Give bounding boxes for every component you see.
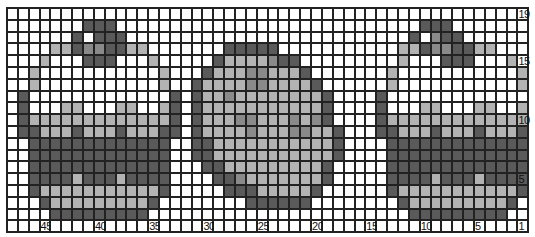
grid-cell (247, 9, 258, 21)
grid-cell (518, 198, 529, 210)
grid-cell (312, 186, 323, 198)
grid-cell (323, 174, 334, 186)
grid-cell (8, 103, 19, 115)
grid-cell (138, 80, 149, 92)
grid-cell (345, 56, 356, 68)
grid-cell: 19 (518, 9, 529, 21)
grid-cell (203, 151, 214, 163)
grid-cell (106, 115, 117, 127)
grid-cell (138, 21, 149, 33)
grid-cell (51, 162, 62, 174)
grid-cell (312, 103, 323, 115)
grid-cell (171, 33, 182, 45)
grid-cell (399, 174, 410, 186)
grid-cell (41, 21, 52, 33)
grid-cell (182, 33, 193, 45)
grid-cell (464, 56, 475, 68)
grid-cell (269, 162, 280, 174)
grid-cell (453, 21, 464, 33)
grid-cell (203, 127, 214, 139)
grid-cell (225, 174, 236, 186)
grid-cell (356, 80, 367, 92)
grid-cell (236, 115, 247, 127)
grid-cell (301, 162, 312, 174)
grid-cell (366, 139, 377, 151)
grid-cell (193, 56, 204, 68)
grid-cell (301, 92, 312, 104)
grid-cell (258, 127, 269, 139)
grid-cell (117, 44, 128, 56)
grid-cell (214, 198, 225, 210)
grid-cell (388, 9, 399, 21)
grid-cell (106, 56, 117, 68)
grid-cell (377, 103, 388, 115)
grid-cell (73, 115, 84, 127)
column-number-label: 10 (421, 221, 432, 231)
grid-cell (497, 127, 508, 139)
grid-cell (366, 92, 377, 104)
grid-cell (30, 174, 41, 186)
grid-cell (51, 210, 62, 222)
grid-cell (323, 186, 334, 198)
grid-cell (214, 92, 225, 104)
column-number-label: 30 (203, 221, 214, 231)
grid-cell (138, 103, 149, 115)
column-number-label: 45 (41, 221, 52, 231)
grid-cell (203, 162, 214, 174)
grid-cell (475, 115, 486, 127)
grid-cell (464, 21, 475, 33)
grid-cell (377, 68, 388, 80)
grid-cell (323, 21, 334, 33)
grid-cell (138, 186, 149, 198)
grid-cell (117, 210, 128, 222)
grid-cell (193, 186, 204, 198)
grid-cell (84, 174, 95, 186)
grid-cell (41, 103, 52, 115)
grid-cell (388, 162, 399, 174)
grid-cell (432, 80, 443, 92)
grid-cell (117, 139, 128, 151)
grid-cell (388, 68, 399, 80)
grid-cell (269, 174, 280, 186)
grid-cell (214, 127, 225, 139)
grid-cell (518, 33, 529, 45)
grid-cell (62, 162, 73, 174)
grid-cell (388, 21, 399, 33)
grid-cell (171, 186, 182, 198)
grid-cell (356, 103, 367, 115)
grid-cell (236, 210, 247, 222)
grid-cell (182, 127, 193, 139)
grid-cell (279, 68, 290, 80)
grid-cell (301, 139, 312, 151)
grid-cell (182, 221, 193, 233)
grid-cell (127, 103, 138, 115)
grid-cell: 30 (203, 221, 214, 233)
grid-cell (269, 127, 280, 139)
grid-cell (138, 210, 149, 222)
grid-cell (279, 80, 290, 92)
grid-cell (388, 221, 399, 233)
grid-cell (486, 174, 497, 186)
grid-cell (73, 210, 84, 222)
grid-cell (486, 221, 497, 233)
grid-cell (432, 221, 443, 233)
grid-cell (508, 127, 519, 139)
grid-cell (366, 33, 377, 45)
grid-cell (453, 198, 464, 210)
grid-cell (301, 151, 312, 163)
grid-cell (279, 44, 290, 56)
grid-cell (421, 80, 432, 92)
grid-cell (453, 151, 464, 163)
grid-cell (236, 174, 247, 186)
grid-cell (51, 9, 62, 21)
grid-cell (84, 68, 95, 80)
grid-cell (193, 68, 204, 80)
grid-cell (138, 221, 149, 233)
grid-cell (269, 92, 280, 104)
grid-cell (236, 9, 247, 21)
grid-cell (334, 210, 345, 222)
grid-cell (269, 115, 280, 127)
grid-cell (247, 92, 258, 104)
grid-cell (160, 44, 171, 56)
grid-cell (51, 198, 62, 210)
